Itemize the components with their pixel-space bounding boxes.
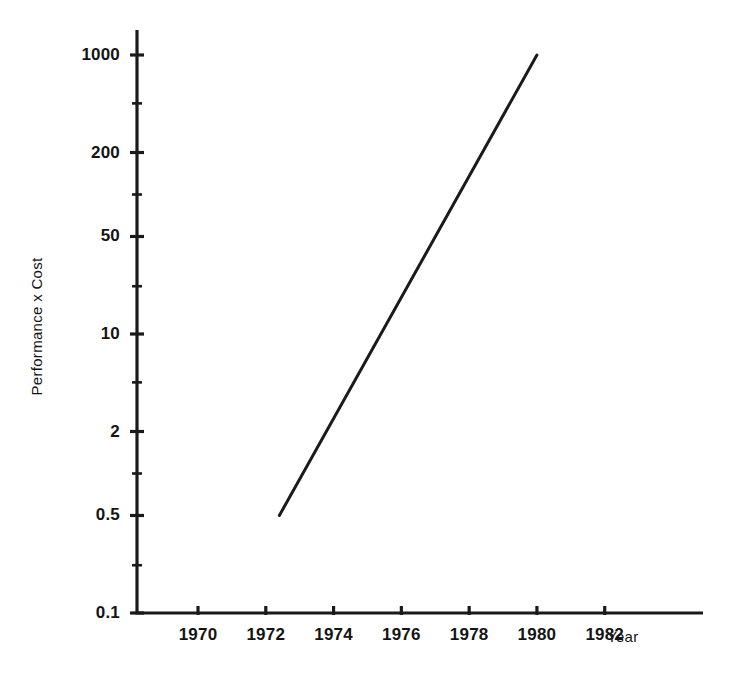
x-axis-title: Year: [607, 628, 639, 645]
y-axis-title: Performance x Cost: [28, 217, 45, 437]
x-axis-tick-labels: 1970197219741976197819801982: [0, 0, 734, 681]
chart-figure: 1000200501020.50.1 197019721974197619781…: [0, 0, 734, 681]
